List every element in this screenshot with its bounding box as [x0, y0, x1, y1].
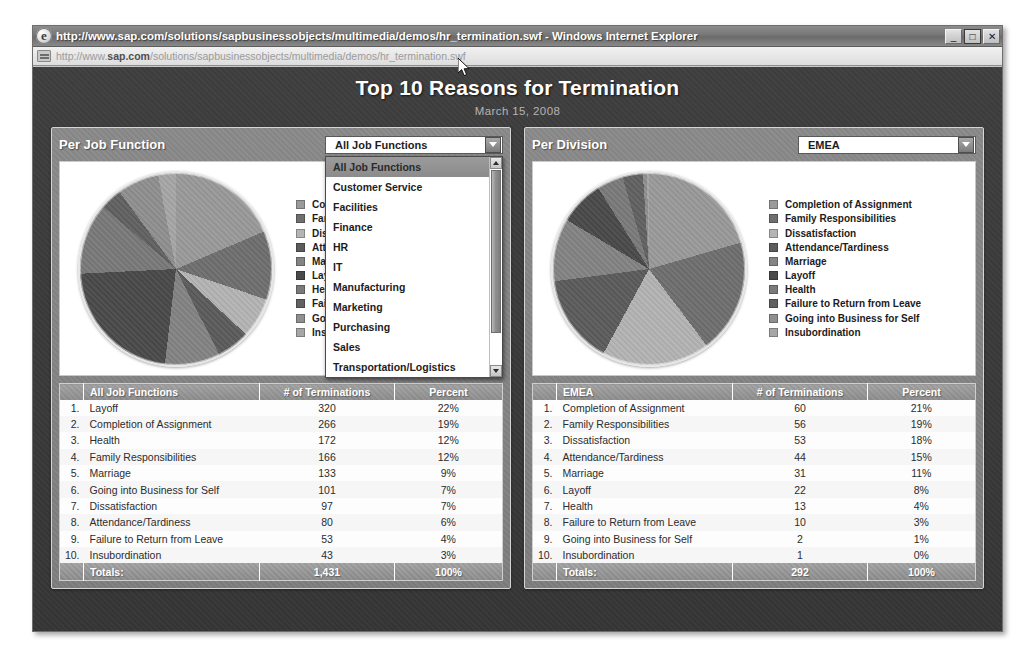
dropdown-option[interactable]: Finance	[326, 217, 489, 237]
row-rank: 6.	[533, 481, 557, 497]
legend-item: Insubordination	[769, 325, 969, 339]
table-row: 8.Failure to Return from Leave103%	[533, 514, 976, 530]
dropdown-option[interactable]: HR	[326, 237, 489, 257]
row-reason: Failure to Return from Leave	[557, 514, 733, 530]
row-count: 266	[260, 416, 395, 432]
pie-wrap-right	[533, 171, 765, 367]
row-count: 31	[733, 465, 868, 481]
panels-container: Per Job Function All Job Functions Compl…	[33, 117, 1002, 589]
scroll-down-icon[interactable]	[490, 365, 502, 377]
job-function-select[interactable]: All Job Functions	[325, 136, 503, 154]
row-reason: Completion of Assignment	[557, 400, 733, 416]
legend-swatch	[296, 328, 305, 337]
table-row: 4.Family Responsibilities16612%	[60, 449, 503, 465]
table-row: 9.Going into Business for Self21%	[533, 531, 976, 547]
row-reason: Insubordination	[84, 547, 260, 563]
row-rank: 6.	[60, 481, 84, 497]
dropdown-option[interactable]: Facilities	[326, 197, 489, 217]
row-rank: 4.	[533, 449, 557, 465]
minimize-button[interactable]: _	[945, 29, 962, 44]
window-titlebar[interactable]: e http://www.sap.com/solutions/sapbusine…	[33, 26, 1002, 47]
flash-content: Top 10 Reasons for Termination March 15,…	[33, 67, 1002, 631]
legend-swatch	[769, 229, 778, 238]
row-percent: 7%	[395, 481, 503, 497]
address-host: sap.com	[107, 50, 150, 62]
row-reason: Going into Business for Self	[557, 531, 733, 547]
legend-swatch	[769, 299, 778, 308]
row-rank: 2.	[60, 416, 84, 432]
row-count: 22	[733, 481, 868, 497]
row-count: 133	[260, 465, 395, 481]
row-percent: 19%	[868, 416, 976, 432]
scroll-up-icon[interactable]	[490, 157, 502, 169]
legend-swatch	[769, 200, 778, 209]
dropdown-scrollbar[interactable]	[489, 157, 502, 377]
legend-item: Family Responsibilities	[769, 212, 969, 226]
dropdown-option[interactable]: Customer Service	[326, 177, 489, 197]
table-totals-row: Totals:1,431100%	[60, 563, 503, 580]
close-button[interactable]: ✕	[983, 29, 1000, 44]
row-rank: 3.	[533, 432, 557, 448]
pie-chart-job-function[interactable]	[78, 171, 274, 367]
row-count: 13	[733, 498, 868, 514]
address-text: http://www.sap.com/solutions/sapbusiness…	[56, 50, 466, 62]
page-title: Top 10 Reasons for Termination	[33, 67, 1002, 100]
maximize-button[interactable]: □	[964, 29, 981, 44]
row-reason: Dissatisfaction	[84, 498, 260, 514]
table-row: 9.Failure to Return from Leave534%	[60, 531, 503, 547]
address-suffix: /solutions/sapbusinessobjects/multimedia…	[150, 50, 466, 62]
chevron-down-icon[interactable]	[485, 137, 501, 153]
pie-wrap-left	[60, 171, 292, 367]
pie-chart-division[interactable]	[551, 171, 747, 367]
table-row: 4.Attendance/Tardiness4415%	[533, 449, 976, 465]
legend-swatch	[769, 214, 778, 223]
dropdown-option[interactable]: Manufacturing	[326, 277, 489, 297]
chevron-down-icon[interactable]	[958, 137, 974, 153]
window-title: http://www.sap.com/solutions/sapbusiness…	[56, 30, 939, 42]
legend-swatch	[296, 229, 305, 238]
dropdown-option[interactable]: Purchasing	[326, 317, 489, 337]
panel-title-right: Per Division	[532, 137, 798, 152]
scroll-thumb[interactable]	[491, 170, 501, 333]
row-rank: 5.	[60, 465, 84, 481]
legend-label: Dissatisfaction	[785, 228, 856, 239]
row-percent: 4%	[395, 531, 503, 547]
table-row: 3.Dissatisfaction5318%	[533, 432, 976, 448]
scroll-track[interactable]	[490, 169, 502, 365]
row-rank: 9.	[60, 531, 84, 547]
table-row: 1.Completion of Assignment6021%	[533, 400, 976, 416]
dropdown-option[interactable]: IT	[326, 257, 489, 277]
job-function-dropdown-list[interactable]: All Job FunctionsCustomer ServiceFacilit…	[325, 156, 503, 378]
row-count: 44	[733, 449, 868, 465]
legend-swatch	[296, 271, 305, 280]
legend-swatch	[296, 314, 305, 323]
table-row: 2.Family Responsibilities5619%	[533, 416, 976, 432]
table-row: 7.Health134%	[533, 498, 976, 514]
dropdown-option[interactable]: Transportation/Logistics	[326, 357, 489, 377]
dropdown-option[interactable]: Sales	[326, 337, 489, 357]
column-header-rank	[60, 384, 84, 400]
address-bar[interactable]: http://www.sap.com/solutions/sapbusiness…	[33, 47, 1002, 66]
table-header-row: All Job Functions # of Terminations Perc…	[60, 384, 503, 400]
row-rank: 3.	[60, 432, 84, 448]
dropdown-option[interactable]: Marketing	[326, 297, 489, 317]
row-percent: 0%	[868, 547, 976, 563]
row-rank: 7.	[60, 498, 84, 514]
panel-header-right: Per Division EMEA	[532, 134, 976, 155]
row-reason: Insubordination	[557, 547, 733, 563]
legend-label: Marriage	[785, 256, 827, 267]
row-count: 60	[733, 400, 868, 416]
legend-label: Insubordination	[785, 327, 861, 338]
row-reason: Attendance/Tardiness	[557, 449, 733, 465]
row-reason: Failure to Return from Leave	[84, 531, 260, 547]
table-row: 3.Health17212%	[60, 432, 503, 448]
column-header-terminations: # of Terminations	[260, 384, 395, 400]
table-row: 8.Attendance/Tardiness806%	[60, 514, 503, 530]
page-icon	[37, 50, 51, 62]
row-count: 166	[260, 449, 395, 465]
row-reason: Marriage	[557, 465, 733, 481]
division-select[interactable]: EMEA	[798, 136, 976, 154]
dropdown-option[interactable]: All Job Functions	[326, 157, 489, 177]
row-percent: 15%	[868, 449, 976, 465]
row-percent: 9%	[395, 465, 503, 481]
